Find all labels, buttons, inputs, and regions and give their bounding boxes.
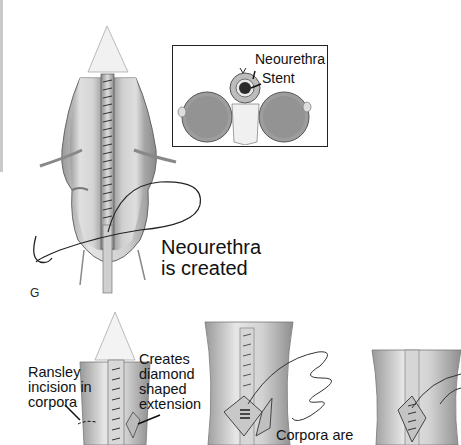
ransley-label-3: corpora [28, 395, 77, 410]
diamond-label-4: extension [139, 397, 201, 412]
label-neourethra: Neourethra [255, 52, 325, 66]
label-stent: Stent [262, 71, 295, 85]
cross-section-inset: Neourethra Stent [172, 45, 328, 147]
ransley-label-2: incision in [28, 380, 92, 395]
diamond-label-2: diamond [139, 367, 195, 382]
diamond-label-3: shaped [139, 382, 187, 397]
panel-letter: G [30, 286, 39, 300]
diamond-label-1: Creates [139, 352, 190, 367]
corpora-label: Corpora are [276, 428, 353, 443]
ransley-label-1: Ransley [28, 365, 80, 380]
caption-line-1: Neourethra [161, 237, 261, 257]
caption-line-2: is created [161, 258, 248, 278]
